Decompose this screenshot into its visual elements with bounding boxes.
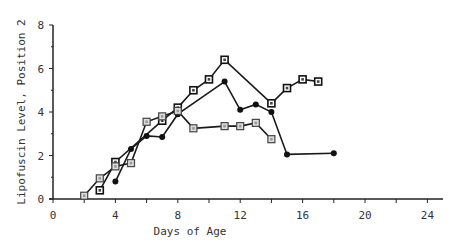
x-tick-label: 4	[112, 209, 119, 222]
plot-area	[81, 56, 337, 199]
x-axis-title: Days of Age	[154, 225, 227, 238]
x-tick-label: 20	[358, 209, 371, 222]
x-tick-label: 0	[50, 209, 57, 222]
data-point-marker	[112, 179, 118, 185]
y-tick-label: 0	[37, 193, 44, 206]
series-2	[81, 107, 275, 199]
lipofuscin-line-chart: 0246804812162024 Days of Age Lipofuscin …	[0, 0, 458, 244]
data-point-marker	[284, 151, 290, 157]
x-tick-label: 12	[234, 209, 247, 222]
data-point-marker	[159, 134, 165, 140]
series-1	[112, 79, 336, 185]
data-point-marker	[144, 133, 150, 139]
data-point-marker	[128, 146, 134, 152]
y-tick-label: 6	[37, 63, 44, 76]
y-tick-label: 8	[37, 19, 44, 32]
y-tick-label: 2	[37, 150, 44, 163]
data-point-marker	[222, 79, 228, 85]
series-line	[115, 82, 333, 182]
x-tick-label: 8	[174, 209, 181, 222]
y-tick-label: 4	[37, 106, 44, 119]
y-axis-title: Lipofuscin Level, Position 2	[15, 19, 28, 204]
data-point-marker	[331, 150, 337, 156]
x-tick-label: 24	[421, 209, 435, 222]
x-tick-label: 16	[296, 209, 309, 222]
data-point-marker	[268, 109, 274, 115]
data-point-marker	[253, 101, 259, 107]
data-point-marker	[237, 107, 243, 113]
series-0	[96, 56, 321, 194]
